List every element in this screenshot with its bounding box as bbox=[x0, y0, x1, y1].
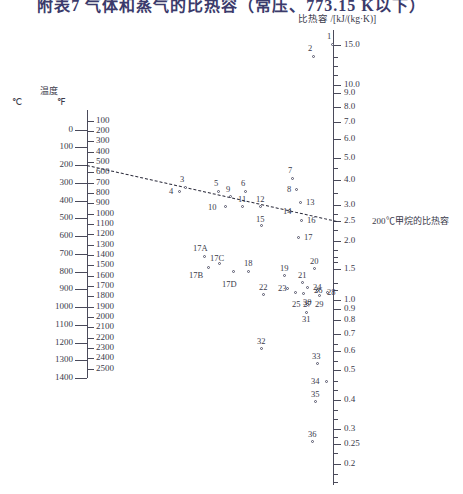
alignment-line-segment bbox=[87, 165, 337, 222]
fahrenheit-tick-label: 300 bbox=[96, 136, 110, 145]
celsius-tick-label: 900 bbox=[39, 284, 73, 293]
scatter-point bbox=[224, 205, 227, 208]
fahrenheit-tick bbox=[87, 348, 94, 349]
specific-heat-minor-tick bbox=[333, 361, 338, 362]
specific-heat-tick-label: 0.2 bbox=[344, 459, 355, 468]
celsius-tick bbox=[75, 254, 87, 255]
fahrenheit-tick-label: 2000 bbox=[96, 312, 114, 321]
celsius-tick-label: 400 bbox=[39, 196, 73, 205]
fahrenheit-tick-label: 100 bbox=[96, 116, 110, 125]
scatter-point-label: 16 bbox=[307, 216, 316, 225]
fahrenheit-tick bbox=[87, 224, 94, 225]
scatter-point-label: 23 bbox=[278, 284, 287, 293]
specific-heat-tick-label: 0.25 bbox=[344, 439, 360, 448]
scatter-point-label: 36 bbox=[308, 430, 317, 439]
fahrenheit-tick-label: 2300 bbox=[96, 343, 114, 352]
fahrenheit-tick bbox=[87, 338, 94, 339]
fahrenheit-tick bbox=[87, 265, 94, 266]
specific-heat-tick bbox=[333, 444, 341, 445]
fahrenheit-tick-label: 2100 bbox=[96, 322, 114, 331]
specific-heat-tick bbox=[333, 180, 341, 181]
specific-heat-axis-header: 比热容 /[kJ/(kg·K)] bbox=[298, 11, 376, 25]
scatter-point bbox=[217, 190, 220, 193]
scatter-point bbox=[232, 270, 235, 273]
scatter-point-label: 11 bbox=[238, 195, 246, 204]
specific-heat-tick-label: 4.0 bbox=[344, 175, 355, 184]
specific-heat-tick bbox=[333, 107, 341, 108]
scatter-point bbox=[207, 266, 210, 269]
fahrenheit-tick-label: 900 bbox=[96, 198, 110, 207]
specific-heat-tick bbox=[333, 93, 341, 94]
fahrenheit-tick-label: 1900 bbox=[96, 302, 114, 311]
figure-title: 附表7 气体和蒸气的比热容（常压、773.15 K以下） bbox=[0, 0, 463, 16]
scatter-point-label: 8 bbox=[287, 185, 291, 194]
scatter-point bbox=[325, 380, 328, 383]
specific-heat-minor-tick bbox=[333, 262, 338, 263]
celsius-tick bbox=[75, 130, 87, 131]
scatter-point-label: 17 bbox=[304, 233, 313, 242]
specific-heat-tick-label: 6.0 bbox=[344, 134, 355, 143]
specific-heat-minor-tick bbox=[333, 214, 338, 215]
scatter-point-label: 4 bbox=[169, 187, 173, 196]
fahrenheit-tick bbox=[87, 131, 94, 132]
scatter-point bbox=[314, 400, 317, 403]
celsius-tick bbox=[75, 289, 87, 290]
fahrenheit-tick-label: 1300 bbox=[96, 240, 114, 249]
fahrenheit-tick bbox=[87, 214, 94, 215]
scatter-point bbox=[241, 205, 244, 208]
fahrenheit-tick bbox=[87, 203, 94, 204]
scatter-point-label: 12 bbox=[256, 195, 265, 204]
fahrenheit-tick bbox=[87, 193, 94, 194]
scatter-point bbox=[316, 362, 319, 365]
celsius-tick-label: 500 bbox=[39, 213, 73, 222]
specific-heat-tick-label: 3.0 bbox=[344, 200, 355, 209]
fahrenheit-tick bbox=[87, 121, 94, 122]
scatter-point bbox=[260, 347, 263, 350]
celsius-tick bbox=[75, 218, 87, 219]
celsius-tick-label: 1000 bbox=[39, 302, 73, 311]
specific-heat-tick bbox=[333, 269, 341, 270]
scatter-point bbox=[301, 281, 304, 284]
fahrenheit-tick bbox=[87, 183, 94, 184]
celsius-tick bbox=[75, 165, 87, 166]
specific-heat-tick bbox=[333, 334, 341, 335]
scatter-point bbox=[184, 186, 187, 189]
scatter-point-label: 35 bbox=[311, 390, 320, 399]
celsius-tick bbox=[75, 307, 87, 308]
nomograph-figure: 附表7 气体和蒸气的比热容（常压、773.15 K以下） 温度 ℃ ℉ 0100… bbox=[0, 0, 463, 494]
scatter-point bbox=[291, 177, 294, 180]
fahrenheit-tick-label: 700 bbox=[96, 178, 110, 187]
specific-heat-minor-tick bbox=[333, 437, 338, 438]
celsius-tick-label: 1400 bbox=[39, 373, 73, 382]
specific-heat-minor-tick bbox=[333, 230, 338, 231]
specific-heat-tick bbox=[333, 309, 341, 310]
celsius-tick bbox=[75, 236, 87, 237]
fahrenheit-tick bbox=[87, 286, 94, 287]
specific-heat-tick-label: 0.6 bbox=[344, 346, 355, 355]
celsius-tick-label: 600 bbox=[39, 231, 73, 240]
scatter-point-label: 2 bbox=[308, 44, 312, 53]
specific-heat-tick-label: 2.5 bbox=[344, 216, 355, 225]
fahrenheit-tick bbox=[87, 276, 94, 277]
specific-heat-minor-tick bbox=[333, 75, 338, 76]
scatter-point bbox=[313, 267, 316, 270]
specific-heat-tick-label: 15.0 bbox=[344, 40, 360, 49]
specific-heat-tick-label: 7.0 bbox=[344, 117, 355, 126]
celsius-tick-label: 100 bbox=[39, 142, 73, 151]
scatter-point bbox=[302, 292, 305, 295]
fahrenheit-tick-label: 1800 bbox=[96, 291, 114, 300]
scatter-point bbox=[229, 195, 232, 198]
scatter-point bbox=[295, 188, 298, 191]
scatter-point-label: 1 bbox=[327, 32, 331, 41]
scatter-point bbox=[318, 294, 321, 297]
scatter-point-label: 21 bbox=[298, 271, 307, 280]
specific-heat-minor-tick bbox=[333, 250, 338, 251]
specific-heat-minor-tick bbox=[333, 283, 338, 284]
specific-heat-minor-tick bbox=[333, 66, 338, 67]
celsius-tick bbox=[75, 272, 87, 273]
scatter-point-label: 10 bbox=[208, 203, 217, 212]
fahrenheit-tick-label: 2400 bbox=[96, 353, 114, 362]
scatter-point bbox=[306, 286, 309, 289]
celsius-tick bbox=[75, 343, 87, 344]
specific-heat-minor-tick bbox=[333, 257, 338, 258]
